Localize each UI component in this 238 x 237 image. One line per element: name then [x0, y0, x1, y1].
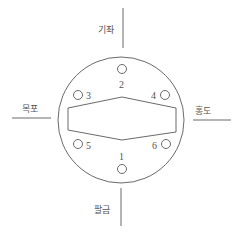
- seat-circle-6: [162, 140, 171, 149]
- seat-circle-2: [118, 65, 127, 74]
- direction-label-right: 홍도: [195, 105, 211, 116]
- seat-circle-1: [118, 165, 127, 174]
- seat-circle-3: [74, 91, 83, 100]
- direction-label-bottom: 팔금: [94, 204, 110, 215]
- direction-label-left: 목포: [22, 104, 38, 114]
- seat-label-5: 5: [86, 140, 91, 151]
- seat-circle-4: [161, 91, 170, 100]
- seat-label-4: 4: [151, 90, 156, 101]
- outer-circle: [58, 57, 184, 183]
- direction-label-top: 기좌: [98, 25, 114, 35]
- seating-diagram: 기좌 목포 홍도 팔금 2 3 4 5 6 1: [0, 0, 238, 237]
- seat-label-6: 6: [152, 140, 157, 151]
- seat-label-3: 3: [86, 90, 91, 101]
- seat-circle-5: [74, 140, 83, 149]
- seat-label-2: 2: [119, 79, 124, 90]
- seat-label-1: 1: [119, 151, 124, 162]
- hexagon-table: [68, 97, 176, 140]
